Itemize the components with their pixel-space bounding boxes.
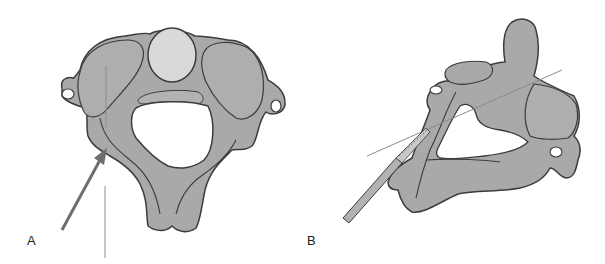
entry-arrow-icon xyxy=(62,148,107,230)
panel-a-vertebra xyxy=(62,28,285,232)
panel-b-vertebra xyxy=(388,19,580,212)
panel-label-a: A xyxy=(27,233,36,248)
figure-canvas xyxy=(0,0,605,264)
panel-label-b: B xyxy=(307,233,316,248)
